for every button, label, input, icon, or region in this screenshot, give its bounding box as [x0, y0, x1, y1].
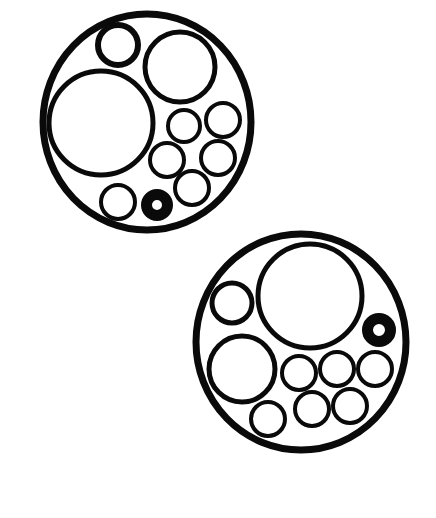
- inner-circle: [251, 402, 285, 436]
- inner-circle: [101, 185, 135, 219]
- inner-circle: [201, 141, 235, 175]
- inner-circle: [295, 392, 329, 426]
- inner-circle: [212, 283, 252, 323]
- circle-packing-drawing: [0, 0, 436, 518]
- upper-circle-group: [43, 14, 251, 230]
- thick-ring: [368, 319, 391, 342]
- lower-circle-group: [196, 234, 406, 450]
- inner-circle: [358, 352, 392, 386]
- inner-circle: [98, 25, 138, 65]
- inner-circle: [168, 110, 200, 142]
- inner-circle: [209, 336, 275, 402]
- inner-circle: [49, 71, 153, 175]
- inner-circle: [145, 32, 215, 102]
- thick-ring: [147, 195, 168, 216]
- inner-circle: [258, 244, 362, 348]
- inner-circle: [206, 103, 240, 137]
- inner-circle: [175, 171, 209, 205]
- inner-circle: [333, 389, 367, 423]
- inner-circle: [150, 143, 184, 177]
- inner-circle: [282, 356, 316, 390]
- inner-circle: [320, 352, 354, 386]
